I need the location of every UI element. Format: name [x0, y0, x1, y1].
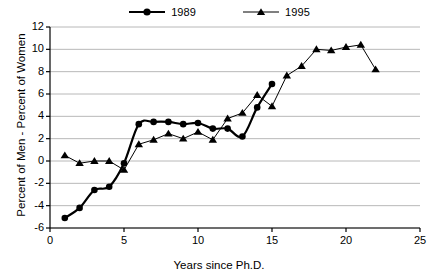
chart-figure: 1989 1995 -6-4-2024681012 0510152025 Yea… — [0, 0, 438, 280]
datapoint-1989-x9 — [180, 121, 187, 128]
y-axis-title: Percent of Men - Percent of Women — [15, 25, 27, 225]
datapoint-1989-x12 — [224, 125, 231, 132]
datapoint-1995-x1 — [61, 151, 69, 158]
datapoint-1995-x8 — [164, 130, 172, 137]
datapoint-1989-x10 — [195, 120, 202, 127]
axis-lines — [50, 27, 420, 228]
x-tick-label-5: 5 — [104, 235, 144, 246]
line-1995 — [65, 45, 376, 170]
datapoint-1989-x3 — [91, 187, 98, 194]
datapoint-1989-x11 — [210, 125, 217, 132]
datapoint-1989-x15 — [269, 81, 276, 88]
data-series-layer — [61, 41, 380, 221]
datapoint-1995-x16 — [283, 72, 291, 79]
datapoint-1995-x18 — [312, 45, 320, 52]
datapoint-1995-x14 — [253, 91, 261, 98]
series-1989 — [62, 81, 276, 222]
x-axis-title: Years since Ph.D. — [0, 259, 438, 271]
x-tick-label-20: 20 — [326, 235, 366, 246]
datapoint-1989-x7 — [150, 119, 157, 126]
datapoint-1989-x1 — [62, 215, 69, 222]
datapoint-1995-x7 — [149, 136, 157, 143]
datapoint-1989-x8 — [165, 119, 172, 126]
gridlines — [50, 27, 420, 228]
datapoint-1989-x13 — [239, 133, 246, 140]
datapoint-1995-x22 — [371, 65, 379, 72]
datapoint-1995-x4 — [105, 157, 113, 164]
x-tick-label-25: 25 — [400, 235, 438, 246]
datapoint-1995-x11 — [209, 136, 217, 143]
datapoint-1995-x3 — [90, 157, 98, 164]
datapoint-1989-x4 — [106, 183, 113, 190]
datapoint-1989-x2 — [76, 205, 83, 212]
x-tick-label-10: 10 — [178, 235, 218, 246]
line-1989 — [65, 84, 272, 218]
datapoint-1989-x14 — [254, 104, 261, 111]
x-tick-label-15: 15 — [252, 235, 292, 246]
datapoint-1995-x12 — [223, 115, 231, 122]
datapoint-1995-x21 — [357, 41, 365, 48]
datapoint-1995-x10 — [194, 128, 202, 135]
datapoint-1995-x15 — [268, 102, 276, 109]
datapoint-1989-x6 — [136, 121, 143, 128]
x-tick-label-0: 0 — [30, 235, 70, 246]
axis-ticks — [46, 27, 420, 232]
series-1995 — [61, 41, 380, 173]
